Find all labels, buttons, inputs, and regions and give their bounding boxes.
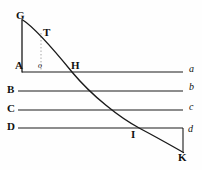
curve-GTHIK (22, 20, 184, 153)
label-line-b: b (189, 82, 194, 92)
label-point-o: o (38, 62, 42, 70)
label-point-H: H (71, 60, 80, 71)
diagram-canvas (0, 0, 202, 170)
label-point-T: T (43, 27, 50, 38)
label-line-A: A (15, 60, 23, 71)
label-point-K: K (178, 152, 187, 163)
label-point-G: G (16, 10, 25, 21)
figure-container: G T A o H B C D I K a b c d (0, 0, 202, 170)
label-line-C: C (7, 103, 15, 114)
label-line-B: B (7, 84, 14, 95)
label-line-D: D (7, 121, 15, 132)
label-line-a: a (189, 64, 194, 74)
label-line-d: d (188, 124, 193, 134)
label-line-c: c (189, 102, 193, 112)
label-point-I: I (131, 129, 135, 140)
